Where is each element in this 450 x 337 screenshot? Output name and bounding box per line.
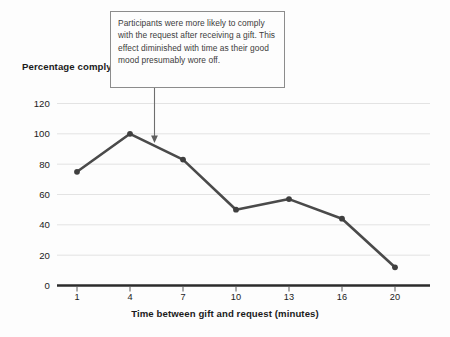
x-tick-label-20: 20 [380,292,410,302]
y-tick-label-40: 40 [16,219,50,230]
x-tick-label-7: 7 [168,292,198,302]
data-line-series [77,134,395,267]
x-tick-label-16: 16 [327,292,357,302]
gridlines [57,104,430,256]
x-tick-label-1: 1 [62,292,92,302]
annotation-arrow-icon [148,88,161,144]
y-tick-label-100: 100 [16,128,50,139]
y-tick-label-80: 80 [16,159,50,170]
y-tick-label-0: 0 [16,280,50,291]
chart-screenshot: 120 100 80 60 40 20 0 1 4 7 10 13 16 20 … [0,0,450,337]
x-tick-label-4: 4 [115,292,145,302]
annotation-text: Participants were more likely to comply … [118,17,277,66]
x-axis-title: Time between gift and request (minutes) [0,308,450,319]
x-tick-label-13: 13 [274,292,304,302]
x-axis-ticks [77,287,395,292]
x-tick-label-10: 10 [221,292,251,302]
y-tick-label-60: 60 [16,189,50,200]
y-tick-label-120: 120 [16,98,50,109]
annotation-callout-box: Participants were more likely to comply … [110,11,285,88]
y-tick-label-20: 20 [16,250,50,261]
data-point-markers [74,131,398,270]
